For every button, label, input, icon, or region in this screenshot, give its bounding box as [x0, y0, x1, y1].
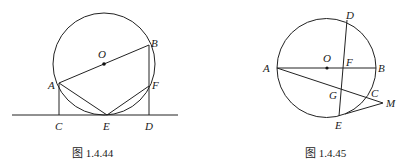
label-d: D [345, 9, 354, 21]
label-b: B [378, 62, 385, 74]
label-c: C [371, 87, 379, 99]
label-m: M [385, 97, 396, 109]
caption-fig-1-4-44: 图 1.4.44 [72, 147, 114, 159]
label-g: G [329, 89, 337, 101]
label-e: E [334, 119, 342, 131]
segment-ef [107, 86, 149, 115]
center-point-o [102, 62, 106, 66]
label-d: D [144, 120, 153, 132]
figure-1-4-44: O B A F C E D 图 1.4.44 [12, 13, 178, 159]
tangent-me [345, 103, 383, 114]
label-e: E [102, 120, 110, 132]
label-o: O [98, 48, 106, 60]
caption-fig-1-4-45: 图 1.4.45 [305, 147, 347, 159]
label-f: F [345, 56, 353, 68]
label-b: B [151, 37, 158, 49]
label-c: C [55, 120, 63, 132]
geometry-figures: O B A F C E D 图 1.4.44 O D A F B G C M E… [0, 0, 405, 161]
center-point-o [325, 66, 328, 69]
label-a: A [262, 62, 270, 74]
figure-1-4-45: O D A F B G C M E 图 1.4.45 [262, 9, 396, 159]
label-o: O [323, 52, 331, 64]
label-f: F [151, 79, 159, 91]
label-a: A [47, 79, 55, 91]
